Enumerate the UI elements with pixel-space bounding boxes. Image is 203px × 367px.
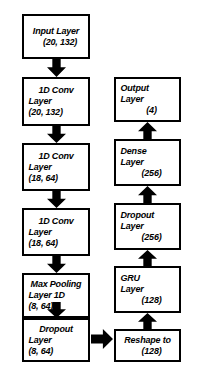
node-output-layer[interactable]: Output Layer (4) xyxy=(114,77,181,122)
node-dropout-1[interactable]: Dropout Layer (8, 64) xyxy=(22,318,90,362)
node-line: Layer xyxy=(26,162,87,173)
node-line: 1D Conv xyxy=(27,216,85,227)
node-line: Layer 1D xyxy=(26,290,87,301)
node-dense-layer[interactable]: Dense Layer (256) xyxy=(114,139,181,186)
node-shape: (256) xyxy=(115,232,180,243)
node-dropout-2[interactable]: Dropout Layer (256) xyxy=(114,203,181,250)
node-shape: (20, 132) xyxy=(26,107,87,118)
arrow-reshape-to-gru xyxy=(138,313,157,329)
node-line: Layer xyxy=(118,221,178,232)
arrow-gru-to-dropout2 xyxy=(138,250,157,266)
node-line: Layer xyxy=(26,335,87,346)
node-shape: (18, 64) xyxy=(26,173,87,184)
node-line: 1D Conv xyxy=(27,85,85,96)
arrow-dense-to-output xyxy=(138,122,157,139)
node-line: Layer xyxy=(26,96,87,107)
node-line: Max Pooling xyxy=(27,279,85,290)
flowchart-canvas: Input Layer (20, 132) 1D Conv Layer (20,… xyxy=(0,0,203,367)
node-shape: (256) xyxy=(115,168,180,179)
node-conv1d-2[interactable]: 1D Conv Layer (18, 64) xyxy=(22,143,90,191)
node-line: Input Layer xyxy=(27,26,85,37)
node-gru-layer[interactable]: GRU Layer (128) xyxy=(114,266,181,313)
node-shape: (20, 132) xyxy=(23,37,89,48)
arrow-dropout2-to-dense xyxy=(138,186,157,203)
arrow-conv1-to-conv2 xyxy=(47,126,66,143)
node-line: Layer xyxy=(118,284,178,295)
node-shape: (128) xyxy=(115,295,180,306)
node-line: Dropout xyxy=(118,210,178,221)
node-line: Layer xyxy=(118,157,178,168)
arrow-input-to-conv1 xyxy=(47,59,66,77)
node-shape: (4) xyxy=(115,105,180,116)
arrow-conv2-to-conv3 xyxy=(47,191,66,208)
node-line: Output xyxy=(118,83,178,94)
node-line: GRU xyxy=(118,273,178,284)
node-shape: (18, 64) xyxy=(26,238,87,249)
node-conv1d-3[interactable]: 1D Conv Layer (18, 64) xyxy=(22,208,90,256)
node-line: Reshape to xyxy=(119,335,176,346)
node-shape: (128) xyxy=(115,346,180,357)
node-input-layer[interactable]: Input Layer (20, 132) xyxy=(22,14,90,59)
node-line: Layer xyxy=(26,227,87,238)
arrow-dropout1-to-reshape xyxy=(91,329,113,349)
arrow-conv3-to-maxpool xyxy=(47,256,66,273)
node-line: Layer xyxy=(118,94,178,105)
node-line: 1D Conv xyxy=(27,151,85,162)
node-line: Dense xyxy=(118,146,178,157)
node-conv1d-1[interactable]: 1D Conv Layer (20, 132) xyxy=(22,77,90,126)
node-reshape[interactable]: Reshape to (128) xyxy=(114,329,181,362)
node-line: Dropout xyxy=(27,324,85,335)
node-shape: (8, 64) xyxy=(26,346,87,357)
